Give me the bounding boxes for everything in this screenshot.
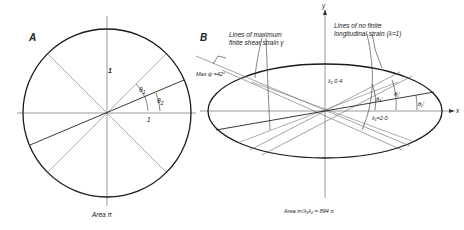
x-axis-label: x: [455, 107, 460, 114]
theta2-label: θ2: [157, 97, 164, 106]
no-strain-arrow-1: [372, 34, 382, 68]
strain-ellipse-diagram: A 1 θ1 θ2 1 Area π B y x: [0, 0, 464, 230]
x-arrow-icon: [449, 109, 455, 113]
panel-a: A 1 θ1 θ2 1 Area π: [17, 16, 196, 218]
shear-arrow-2: [266, 38, 270, 130]
lambda1-label: λ₁=2·0: [371, 115, 389, 121]
max-psi-label: Max ψ =42°: [196, 71, 226, 77]
y-axis-label: y: [321, 2, 326, 10]
theta3p-label: θ₃′: [376, 96, 383, 102]
panel-b: B y x Lines of maximum finite she: [196, 2, 460, 214]
no-strain-line-2: [252, 82, 412, 141]
lambda2-label: λ₂ 0·4: [327, 78, 342, 84]
area-a-label: Area π: [91, 211, 113, 218]
shear-annotation-line1: Lines of maximum: [229, 31, 282, 38]
panel-b-label: B: [200, 32, 207, 43]
radius-label: 1: [108, 67, 112, 74]
theta1p-label: θ₁′: [394, 91, 401, 97]
no-strain-annotation-line2: longitudinal strain (λ=1): [334, 30, 401, 38]
theta1-label: θ1: [139, 86, 146, 95]
panel-a-label: A: [28, 32, 36, 43]
theta2p-arc: [416, 95, 417, 110]
unit-x-label: 1: [147, 116, 151, 123]
no-strain-arrow-2: [362, 34, 372, 130]
area-b-label: Area π√λ₁λ₂ =·894 π: [283, 208, 334, 214]
theta2p-label: θ₂′: [418, 101, 425, 107]
shear-line-4: [262, 76, 412, 155]
psi-angle-mark: [213, 56, 226, 64]
shear-annotation-line2: finite shear strain γ: [229, 39, 284, 47]
y-arrow-icon: [323, 9, 327, 15]
no-strain-annotation-line1: Lines of no finite: [334, 22, 382, 29]
